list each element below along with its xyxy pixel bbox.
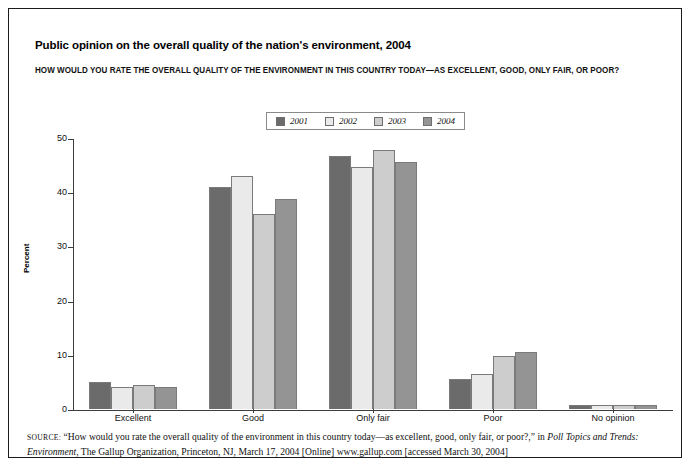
legend-item-2004[interactable]: 2004 — [423, 116, 455, 126]
bar-2003-excellent[interactable] — [133, 385, 155, 409]
legend-swatch-icon-2003 — [374, 117, 383, 126]
bar-group-bars — [73, 138, 193, 409]
bar-2002-excellent[interactable] — [111, 387, 133, 409]
legend-label: 2001 — [290, 116, 308, 126]
x-axis-label-good: Good — [242, 413, 264, 423]
bar-2002-poor[interactable] — [471, 374, 493, 409]
bar-group-only-fair: Only fair — [313, 138, 433, 409]
bar-group-no-opinion: No opinion — [553, 138, 673, 409]
source-note: SOURCE: “How would you rate the overall … — [27, 430, 673, 459]
x-axis-label-no-opinion: No opinion — [591, 413, 634, 423]
y-axis-tick-label: 30 — [27, 241, 67, 251]
bar-2003-good[interactable] — [253, 214, 275, 409]
legend-swatch-icon-2002 — [325, 117, 334, 126]
bar-2004-poor[interactable] — [515, 352, 537, 409]
bar-group-good: Good — [193, 138, 313, 409]
bar-2004-only-fair[interactable] — [395, 162, 417, 409]
bar-2002-no-opinion[interactable] — [591, 405, 613, 409]
legend-item-2003[interactable]: 2003 — [374, 116, 406, 126]
x-axis-label-excellent: Excellent — [115, 413, 152, 423]
chart-plot-area: 01020304050 ExcellentGoodOnly fairPoorNo… — [73, 139, 673, 410]
figure-frame: Public opinion on the overall quality of… — [8, 8, 682, 458]
bar-group-bars — [193, 138, 313, 409]
chart-question-subtitle: HOW WOULD YOU RATE THE OVERALL QUALITY O… — [35, 65, 619, 75]
bar-2001-only-fair[interactable] — [329, 156, 351, 409]
source-text-1: “How would you rate the overall quality … — [61, 431, 547, 442]
legend-item-2001[interactable]: 2001 — [276, 116, 308, 126]
bar-2003-no-opinion[interactable] — [613, 405, 635, 409]
bar-2001-no-opinion[interactable] — [569, 405, 591, 409]
x-axis-label-poor: Poor — [483, 413, 502, 423]
legend-item-2002[interactable]: 2002 — [325, 116, 357, 126]
bar-2001-good[interactable] — [209, 187, 231, 409]
y-axis-tick-label: 50 — [27, 133, 67, 143]
legend-swatch-icon-2004 — [423, 117, 432, 126]
y-axis-tick-label: 0 — [27, 404, 67, 414]
legend-label: 2003 — [388, 116, 406, 126]
bar-group-bars — [313, 138, 433, 409]
bar-2002-good[interactable] — [231, 176, 253, 409]
bar-group-poor: Poor — [433, 138, 553, 409]
source-label: SOURCE: — [27, 433, 61, 442]
bar-2002-only-fair[interactable] — [351, 167, 373, 409]
chart-legend: 2001200220032004 — [266, 112, 465, 130]
bar-2003-poor[interactable] — [493, 356, 515, 409]
bar-group-excellent: Excellent — [73, 138, 193, 409]
y-axis-tick-label: 10 — [27, 350, 67, 360]
page-title: Public opinion on the overall quality of… — [35, 39, 411, 51]
bar-2004-excellent[interactable] — [155, 387, 177, 409]
bar-2001-excellent[interactable] — [89, 382, 111, 409]
x-axis-label-only-fair: Only fair — [356, 413, 390, 423]
bar-group-bars — [433, 138, 553, 409]
bar-group-bars — [553, 138, 673, 409]
source-text-2: , The Gallup Organization, Princeton, NJ… — [76, 446, 508, 457]
bar-2001-poor[interactable] — [449, 379, 471, 409]
y-axis-title: Percent — [22, 244, 31, 273]
bar-2004-good[interactable] — [275, 199, 297, 409]
legend-label: 2002 — [339, 116, 357, 126]
legend-label: 2004 — [437, 116, 455, 126]
y-axis-tick-mark — [68, 410, 73, 411]
bar-2004-no-opinion[interactable] — [635, 405, 657, 409]
y-axis-tick-label: 40 — [27, 187, 67, 197]
legend-swatch-icon-2001 — [276, 117, 285, 126]
y-axis-tick-label: 20 — [27, 296, 67, 306]
bar-2003-only-fair[interactable] — [373, 150, 395, 409]
